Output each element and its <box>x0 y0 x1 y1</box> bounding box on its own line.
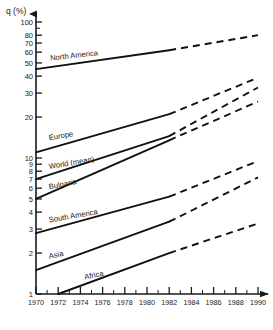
series-label: Asia <box>48 249 65 261</box>
x-axis: 1970197219741976197819801982198419861988… <box>28 287 268 307</box>
series-line-solid <box>36 136 169 179</box>
y-tick-label: 20 <box>25 113 33 122</box>
y-tick-label: 4 <box>29 208 33 217</box>
y-tick-label: 3 <box>29 225 33 234</box>
series-label: Africa <box>84 269 106 282</box>
y-tick-label: 70 <box>25 39 33 48</box>
x-tick-label: 1986 <box>206 298 222 307</box>
x-tick-label: 1982 <box>161 298 177 307</box>
y-axis: 1234567891020304050607080100 <box>20 14 42 299</box>
y-tick-label: 6 <box>29 184 33 193</box>
x-tick-label: 1976 <box>95 298 111 307</box>
y-tick-label: 10 <box>25 154 33 163</box>
series-line-forecast <box>169 102 258 141</box>
series-line-forecast <box>169 35 258 50</box>
x-tick-label: 1978 <box>117 298 133 307</box>
x-tick-label: 1972 <box>50 298 66 307</box>
y-tick-label: 100 <box>20 18 33 27</box>
y-tick-label: 60 <box>25 48 33 57</box>
series-labels: North AmericaEuropeWorld (mean)BulgariaS… <box>48 48 105 281</box>
y-tick-label: 5 <box>29 195 33 204</box>
chart-container: 1234567891020304050607080100 19701972197… <box>0 0 273 330</box>
x-tick-label: 1990 <box>250 298 266 307</box>
series-line-solid <box>58 253 169 294</box>
y-tick-label: 40 <box>25 72 33 81</box>
y-axis-title: q (%) <box>6 6 26 16</box>
line-chart: 1234567891020304050607080100 19701972197… <box>0 0 273 330</box>
x-tick-label: 1988 <box>228 298 244 307</box>
y-tick-label: 30 <box>25 89 33 98</box>
y-tick-label: 2 <box>29 249 33 258</box>
x-tick-label: 1970 <box>28 298 44 307</box>
series-line-forecast <box>169 161 258 197</box>
series-label: Europe <box>48 129 74 142</box>
series-label: Bulgaria <box>48 177 78 191</box>
y-tick-label: 7 <box>29 175 33 184</box>
series-line-forecast <box>169 223 258 253</box>
x-tick-label: 1974 <box>72 298 88 307</box>
series-line-forecast <box>169 177 258 221</box>
series-line-solid <box>36 222 169 270</box>
x-tick-label: 1980 <box>139 298 155 307</box>
x-tick-label: 1984 <box>183 298 199 307</box>
y-tick-label: 50 <box>25 59 33 68</box>
y-tick-label: 80 <box>25 31 33 40</box>
series-line-forecast <box>169 87 258 136</box>
series-line-forecast <box>169 78 258 115</box>
